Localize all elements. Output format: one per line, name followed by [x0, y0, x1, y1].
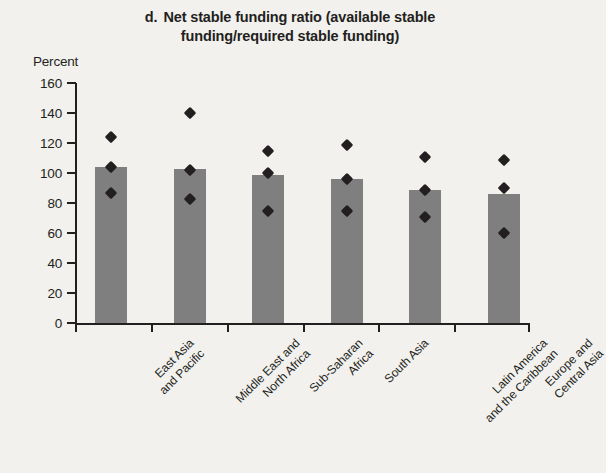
data-point-marker — [498, 182, 511, 195]
y-axis-tick — [67, 82, 76, 84]
data-point-marker — [340, 138, 353, 151]
y-axis-tick-label: 140 — [40, 106, 62, 121]
y-axis-tick — [67, 232, 76, 234]
chart-title: d.Net stable funding ratio (available st… — [90, 8, 490, 46]
x-axis-tick — [303, 323, 305, 332]
x-axis-category-label: South Asia — [381, 336, 431, 386]
y-axis-tick-label: 160 — [40, 76, 62, 91]
y-axis-unit-label: Percent — [33, 54, 78, 69]
y-axis-tick — [67, 202, 76, 204]
y-axis-tick — [67, 292, 76, 294]
plot-area: 020406080100120140160 — [75, 83, 530, 323]
x-axis-label-line: South Asia — [381, 336, 431, 386]
y-axis-tick — [67, 112, 76, 114]
y-axis-tick-label: 0 — [55, 316, 62, 331]
data-point-marker — [419, 150, 432, 163]
x-axis-tick — [378, 323, 380, 332]
y-axis-tick-label: 100 — [40, 166, 62, 181]
bar — [252, 175, 284, 324]
bar — [174, 169, 206, 324]
y-axis-tick — [67, 262, 76, 264]
x-axis-tick — [75, 323, 77, 332]
y-axis-tick-label: 40 — [47, 256, 62, 271]
x-axis-tick — [151, 323, 153, 332]
y-axis-tick-label: 120 — [40, 136, 62, 151]
chart-title-line2: funding/required stable funding) — [181, 28, 399, 44]
data-point-marker — [498, 153, 511, 166]
data-point-marker — [105, 131, 118, 144]
x-axis-category-label: Sub-SaharanAfrica — [307, 336, 377, 406]
bar — [409, 190, 441, 324]
y-axis-tick — [67, 172, 76, 174]
x-axis-tick — [454, 323, 456, 332]
data-point-marker — [262, 144, 275, 157]
y-axis-tick — [67, 142, 76, 144]
bar — [488, 194, 520, 323]
y-axis-tick-label: 20 — [47, 286, 62, 301]
x-axis-category-label: Middle East andNorth Africa — [232, 336, 312, 416]
y-axis-tick-label: 80 — [47, 196, 62, 211]
panel-letter: d. — [145, 9, 158, 25]
data-point-marker — [183, 107, 196, 120]
x-axis-tick — [528, 323, 530, 332]
x-axis-tick — [227, 323, 229, 332]
bar — [331, 179, 363, 323]
y-axis-tick-label: 60 — [47, 226, 62, 241]
chart-title-line1: Net stable funding ratio (available stab… — [163, 9, 435, 25]
x-axis-category-label: East Asiaand Pacific — [146, 336, 207, 397]
